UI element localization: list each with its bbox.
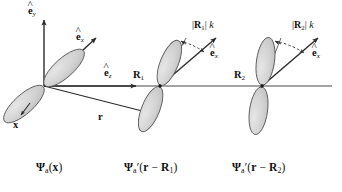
orbital-phase-diagram: ey ex ez r x R1 R2 ex ex |R1| k |R2| k Ψ… [0,0,342,192]
e-hat-y-sub: y [33,10,36,18]
caption-middle: Ψa′(r − R1) [124,162,177,175]
phase-annotation-R2: |R2| k [292,20,314,32]
bar-close: | [205,19,207,30]
e-hat-x-base: e [210,48,215,59]
k-symbol: k [209,19,213,30]
x-point-label: x [13,120,18,131]
R1-sub: 1 [141,74,145,82]
R2-base: R [234,69,242,80]
e-hat-x-base: e [76,32,81,43]
caption-left: Ψa(x) [36,162,62,175]
bar-close: | [305,19,307,30]
e-hat-x-base: e [312,48,317,59]
phase-annotation-R1: |R1| k [192,20,214,32]
site-dot-R2 [260,84,263,87]
orbital-lobe-lower [133,84,168,135]
R1-base: R [133,69,141,80]
k-symbol: k [309,19,313,30]
orbital-lobe-upper [152,37,187,88]
e-hat-y-base: e [28,6,33,17]
caption-psi: Ψ [36,161,45,173]
caption-psi: Ψ [124,161,133,173]
orbital-lobe-lower [246,86,271,136]
caption-minus: − [151,161,158,173]
orbital-lobe-upper [253,36,278,86]
R2-site-label: R2 [234,70,245,82]
R1-site-label: R1 [133,70,144,82]
r-vector-label: r [98,112,103,123]
r-vector-arrow [44,86,150,113]
caption-psi: Ψ [232,161,241,173]
e-hat-x-sub: x [81,36,84,44]
phase-arc-R2 [279,42,304,53]
caption-paren-close: ) [281,161,285,173]
caption-arg-r: r [251,161,256,173]
e-hat-z-base: e [104,68,109,79]
R2-sub: 2 [242,74,246,82]
e-hat-x-sub: x [317,52,320,60]
e-hat-x-label-origin: ex [76,32,84,44]
caption-paren-close: ) [58,161,62,173]
e-hat-y-label: ey [28,6,36,18]
panel-origin-group [0,20,150,129]
e-hat-x-sub: x [215,52,218,60]
e-hat-x-label-R2: ex [312,48,320,60]
caption-arg-r: r [143,161,148,173]
e-hat-z-sub: z [109,72,112,80]
e-hat-x-label-R1: ex [210,48,218,60]
orbital-lobe-upper [38,43,89,92]
e-hat-z-label: ez [104,68,111,80]
orbital-lobe-lower [0,80,50,129]
caption-minus: − [259,161,266,173]
site-dot-R1 [158,84,161,87]
caption-paren-close: ) [173,161,177,173]
caption-right: Ψa′(r − R2) [232,162,285,175]
